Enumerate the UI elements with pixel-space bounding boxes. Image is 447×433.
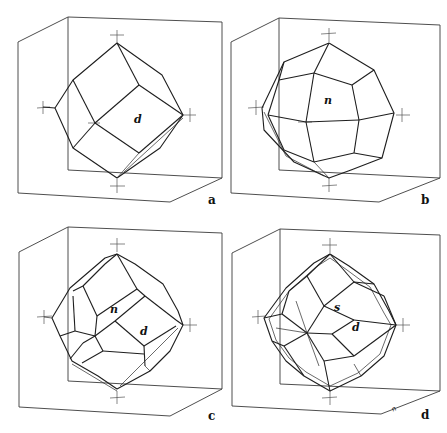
panel-c: n d c: [0, 216, 224, 432]
panel-label-b: b: [421, 194, 429, 206]
crystal-diagram-a: [0, 0, 224, 216]
reference-box: [232, 229, 440, 414]
crystal-diagram-d: [224, 216, 447, 432]
panel-label-a: a: [208, 194, 216, 206]
face-label-d: d: [134, 114, 142, 125]
axis-ticks: [248, 28, 410, 192]
panel-label-d: d: [421, 409, 429, 421]
panel-d: s d n d: [224, 216, 447, 432]
crystal-diagram-b: [224, 0, 447, 216]
face-label-s: s: [334, 302, 340, 313]
panel-b: n b: [224, 0, 447, 216]
crystal-edges: [44, 254, 183, 391]
axis-ticks: [37, 238, 197, 404]
panel-a: d a: [0, 0, 224, 216]
face-label-d: d: [140, 326, 148, 337]
crystal-edges: [262, 43, 394, 178]
axis-ticks: [37, 30, 196, 193]
face-label-n: n: [324, 95, 332, 106]
axis-ticks: [252, 238, 410, 405]
face-label-d: d: [352, 322, 360, 333]
crystal-diagram-c: [0, 216, 224, 432]
crystal-edges: [264, 254, 396, 391]
panel-label-c: c: [208, 410, 215, 422]
crystal-edges: [43, 43, 183, 178]
face-label-n: n: [110, 304, 118, 315]
